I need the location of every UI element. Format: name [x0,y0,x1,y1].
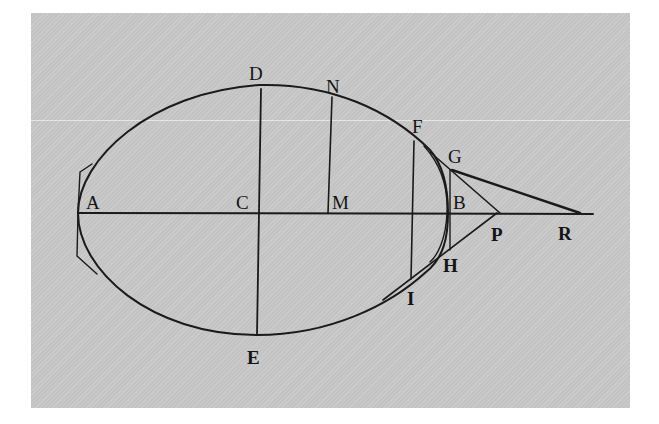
label-M: M [332,192,349,213]
label-B: B [453,192,466,213]
geometric-figure: A C D E N M F G B H I P R [0,0,659,424]
label-N: N [326,76,340,97]
ordinate-FI [411,141,414,279]
label-A: A [86,192,100,213]
label-G: G [448,146,462,167]
label-I: I [407,288,414,309]
label-C: C [236,192,249,213]
label-D: D [249,63,263,84]
line-PI [383,213,497,300]
major-axis-line [78,213,593,214]
left-polygon-lower [77,213,97,274]
label-R: R [558,223,572,244]
label-F: F [412,116,423,137]
oval-curve [78,85,448,335]
tangent-GR [452,170,580,213]
label-H: H [443,255,458,276]
label-E: E [247,347,260,368]
minor-axis-line-DE [257,89,261,335]
label-P: P [491,224,503,245]
